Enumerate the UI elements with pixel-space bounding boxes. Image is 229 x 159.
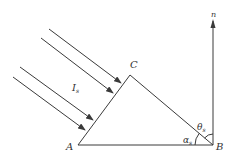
theta-angle-label: θs	[197, 122, 206, 133]
vertex-label-b: B	[215, 141, 223, 152]
angle-arc-theta	[205, 134, 213, 138]
triangle-abc	[78, 75, 213, 145]
vertex-label-c: C	[130, 59, 138, 70]
incident-ray	[41, 38, 113, 93]
angle-arc-alpha	[195, 133, 199, 145]
alpha-angle-label: αs	[183, 135, 192, 146]
incident-ray	[49, 29, 121, 83]
normal-arrowhead-icon	[211, 19, 216, 28]
side-cb	[130, 75, 213, 145]
triangle-diagram: A B C n Is αs θs	[0, 0, 229, 159]
normal-label-n: n	[211, 10, 216, 19]
intensity-label: Is	[71, 82, 79, 94]
incident-rays	[13, 29, 121, 130]
vertex-label-a: A	[65, 141, 73, 152]
incident-ray	[20, 67, 93, 120]
